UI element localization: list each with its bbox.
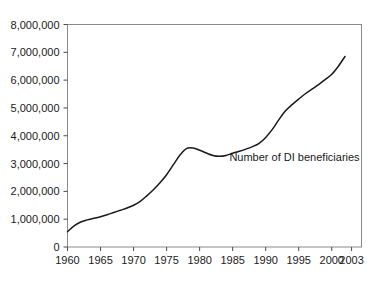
x-tick-label: 1980	[187, 254, 211, 266]
chart-container: 01,000,0002,000,0003,000,0004,000,0005,0…	[0, 0, 374, 281]
y-tick-label: 8,000,000	[11, 19, 60, 31]
y-tick-label: 5,000,000	[11, 102, 60, 114]
y-tick-label: 4,000,000	[11, 130, 60, 142]
x-tick-label: 1985	[220, 254, 244, 266]
y-tick-label: 7,000,000	[11, 46, 60, 58]
line-chart: 01,000,0002,000,0003,000,0004,000,0005,0…	[0, 0, 374, 281]
y-tick-label: 3,000,000	[11, 158, 60, 170]
y-tick-label: 1,000,000	[11, 213, 60, 225]
y-tick-label: 0	[53, 241, 59, 253]
x-tick-label: 1960	[55, 254, 79, 266]
x-tick-label: 1970	[121, 254, 145, 266]
x-tick-label: 2003	[339, 254, 363, 266]
y-tick-label: 6,000,000	[11, 74, 60, 86]
series-annotation-label: Number of DI beneficiaries	[229, 151, 360, 163]
x-tick-label: 1975	[154, 254, 178, 266]
y-axis-tick-labels: 01,000,0002,000,0003,000,0004,000,0005,0…	[11, 19, 60, 254]
x-tick-label: 1965	[88, 254, 112, 266]
y-tick-label: 2,000,000	[11, 185, 60, 197]
x-tick-label: 1990	[253, 254, 277, 266]
x-tick-label: 1995	[286, 254, 310, 266]
